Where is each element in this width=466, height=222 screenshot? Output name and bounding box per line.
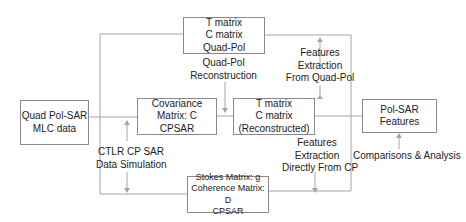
quadpol-matrix-box: T matrix C matrix Quad-Pol xyxy=(183,17,265,54)
stokes-box: Stokes Matrix: g Coherence Matrix: D CPS… xyxy=(187,176,269,213)
features-line-2: Features xyxy=(380,116,419,129)
extraction-cp-line-2: Extraction xyxy=(282,150,352,163)
quadpol-matrix-line-2: C matrix xyxy=(205,29,242,42)
extraction-quadpol-line-2: Extraction xyxy=(280,60,360,73)
reconstructed-line-3: (Reconstructed) xyxy=(238,123,309,136)
extraction-quadpol-line-3: From Quad-Pol xyxy=(280,72,360,85)
extraction-cp-line-1: Features xyxy=(282,137,352,150)
reconstructed-line-2: C matrix xyxy=(255,110,292,123)
simulation-line-2: Data Simulation xyxy=(96,159,166,172)
stokes-line-1: Stokes Matrix: g xyxy=(196,172,261,184)
extraction-cp-line-3: Directly From CP xyxy=(282,162,352,175)
reconstructed-line-1: T matrix xyxy=(256,98,292,111)
mlc-data-box: Quad Pol-SAR MLC data xyxy=(20,100,89,145)
extraction-cp-label: Features Extraction Directly From CP xyxy=(282,137,352,175)
mlc-data-line-1: Quad Pol-SAR xyxy=(22,110,88,123)
mlc-data-line-2: MLC data xyxy=(33,123,76,136)
reconstruction-label-line-1: Quad-Pol xyxy=(176,57,271,70)
extraction-quadpol-line-1: Features xyxy=(280,47,360,60)
simulation-line-1: CTLR CP SAR xyxy=(96,146,166,159)
extraction-quadpol-label: Features Extraction From Quad-Pol xyxy=(280,47,360,85)
reconstructed-box: T matrix C matrix (Reconstructed) xyxy=(233,98,315,135)
stokes-line-2: Coherence Matrix: D xyxy=(188,183,268,206)
comparison-label: Comparisons & Analysis xyxy=(353,150,447,163)
covariance-line-1: Covariance xyxy=(152,98,203,111)
simulation-label: CTLR CP SAR Data Simulation xyxy=(96,146,166,171)
covariance-line-2: Matrix: C xyxy=(157,110,197,123)
covariance-line-3: CPSAR xyxy=(160,123,194,136)
features-line-1: Pol-SAR xyxy=(380,104,418,117)
covariance-box: Covariance Matrix: C CPSAR xyxy=(137,98,217,135)
stokes-line-3: CPSAR xyxy=(212,206,243,218)
quadpol-matrix-line-3: Quad-Pol xyxy=(203,42,245,55)
quadpol-matrix-line-1: T matrix xyxy=(206,17,242,30)
reconstruction-label-line-2: Reconstruction xyxy=(176,70,271,83)
reconstruction-label: Quad-Pol Reconstruction xyxy=(176,57,271,82)
features-box: Pol-SAR Features xyxy=(362,99,437,133)
comparison-line-1: Comparisons & Analysis xyxy=(353,150,447,163)
